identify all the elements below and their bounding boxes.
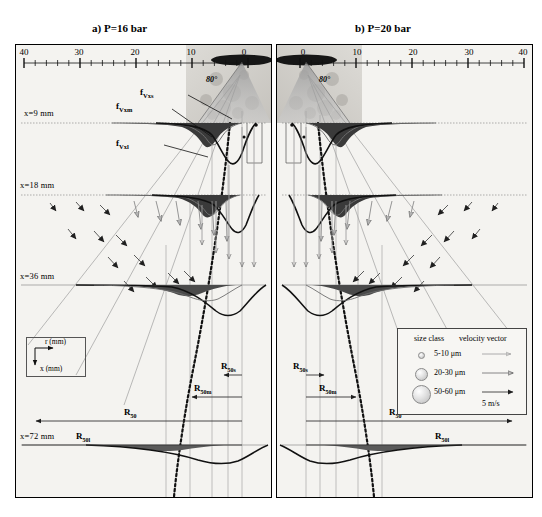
fvxm-sub: Vxm	[119, 106, 132, 113]
panel-a-plot: 40 30 20 10 0	[16, 45, 271, 497]
panel-a-label-fvxm: fVxm	[116, 101, 132, 113]
panel-a-tick-20: 20	[131, 47, 140, 57]
panel-a-tick-10: 10	[187, 47, 196, 57]
b-r50s-sub: 50s	[300, 367, 308, 373]
r50s-sub: 50s	[228, 367, 236, 373]
panel-a-label-r50s: R50s	[221, 361, 236, 373]
legend-box: size class velocity vector 5-10 μm 20-30…	[397, 328, 527, 415]
axes-key-x-label: x (mm)	[40, 364, 62, 373]
r50-sub: 50	[131, 413, 137, 419]
r50l-sub: 50l	[83, 437, 91, 443]
figure-root: a) P=16 bar	[0, 0, 542, 517]
panel-a-label-fvxl: fVxl	[116, 138, 129, 150]
axes-key-box: r (mm) x (mm)	[26, 337, 86, 377]
panel-a: 40 30 20 10 0	[15, 44, 272, 498]
panel-a-tick-0: 0	[242, 47, 247, 57]
panel-a-station-72: x=72 mm	[20, 431, 54, 441]
panel-a-station-18: x=18 mm	[20, 180, 54, 190]
fvxs-sub: Vxs	[143, 92, 153, 99]
panel-b-title: b) P=20 bar	[355, 22, 411, 34]
panel-a-label-r50: R50	[124, 407, 137, 419]
axes-key-r-label: r (mm)	[45, 337, 66, 346]
panel-a-station-9: x=9 mm	[24, 108, 54, 118]
r50m-sub: 50m	[201, 389, 212, 395]
panel-b-tick-40: 40	[519, 47, 528, 57]
panel-a-label-fvxs: fVxs	[140, 87, 153, 99]
panel-a-label-r50m: R50m	[194, 383, 212, 395]
panel-b: 0 10 20 30 40	[276, 44, 533, 498]
panel-b-tick-10: 10	[353, 47, 362, 57]
panel-a-cone-angle: 80°	[206, 75, 217, 84]
b-r50m-sub: 50m	[326, 389, 337, 395]
panel-a-tick-40: 40	[20, 47, 29, 57]
panel-a-label-r50l: R50l	[76, 431, 90, 443]
panel-a-title: a) P=16 bar	[92, 22, 147, 34]
legend-velocity-scale: 5 m/s	[482, 399, 500, 408]
panel-b-graphics	[277, 45, 532, 497]
legend-vectors	[398, 329, 526, 414]
panel-b-plot: 0 10 20 30 40	[277, 45, 532, 497]
b-r50l-sub: 50l	[442, 437, 450, 443]
panel-a-tick-30: 30	[75, 47, 84, 57]
panel-b-tick-0: 0	[301, 47, 306, 57]
fvxl-sub: Vxl	[119, 143, 129, 150]
panel-b-tick-30: 30	[465, 47, 474, 57]
panel-b-label-r50m: R50m	[319, 383, 337, 395]
panel-b-label-r50s: R50s	[293, 361, 308, 373]
panel-b-label-r50l: R50l	[435, 431, 449, 443]
panel-b-cone-angle: 80°	[319, 75, 330, 84]
panel-a-station-36: x=36 mm	[20, 271, 54, 281]
panel-b-tick-20: 20	[409, 47, 418, 57]
